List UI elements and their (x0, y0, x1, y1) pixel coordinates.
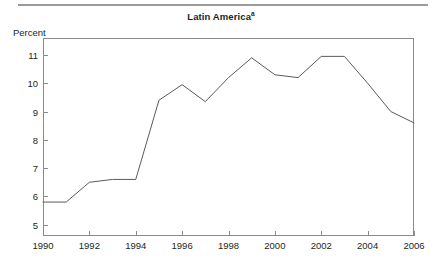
series-line-latin-america (43, 56, 414, 202)
chart-plot-area (0, 0, 442, 268)
